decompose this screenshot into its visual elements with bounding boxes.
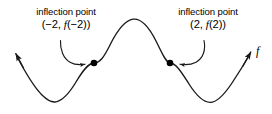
left-coords-arg: (−2)) bbox=[67, 18, 90, 30]
left-coords-x: −2, bbox=[45, 18, 64, 30]
inflection-point-dot-left bbox=[91, 60, 98, 67]
right-inflection-label-title: inflection point bbox=[166, 6, 250, 17]
right-inflection-label-coords: (2, f(2)) bbox=[166, 18, 250, 31]
function-curve bbox=[17, 19, 251, 102]
curve-name-label: f bbox=[256, 44, 259, 59]
curve-arrow-right bbox=[243, 52, 251, 66]
inflection-point-diagram: inflection point (−2, f(−2)) inflection … bbox=[0, 0, 272, 114]
curve-arrow-left bbox=[16, 54, 24, 68]
left-pointer-arrow bbox=[60, 41, 85, 65]
right-coords-x: 2, bbox=[194, 18, 206, 30]
right-coords-arg: (2)) bbox=[209, 18, 226, 30]
left-inflection-label-coords: (−2, f(−2)) bbox=[24, 18, 108, 31]
inflection-point-dot-right bbox=[167, 60, 174, 67]
left-inflection-label-title: inflection point bbox=[24, 6, 108, 17]
right-pointer-arrow bbox=[180, 41, 205, 65]
left-inflection-label: inflection point (−2, f(−2)) bbox=[24, 6, 108, 31]
right-inflection-label: inflection point (2, f(2)) bbox=[166, 6, 250, 31]
